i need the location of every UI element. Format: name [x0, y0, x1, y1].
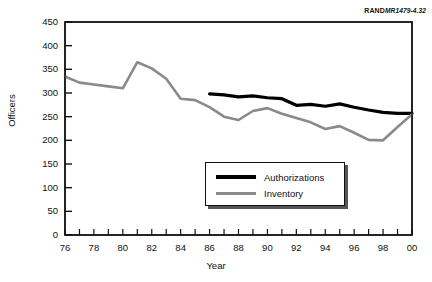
y-tick-label: 100 — [18, 182, 58, 193]
x-tick-label: 96 — [342, 242, 366, 253]
x-tick-label: 78 — [82, 242, 106, 253]
x-axis-label: Year — [0, 260, 432, 271]
y-tick-label: 300 — [18, 87, 58, 98]
x-tick-label: 84 — [169, 242, 193, 253]
x-tick-label: 92 — [284, 242, 308, 253]
legend-item-authorizations: Authorizations — [216, 170, 324, 184]
y-tick-label: 450 — [18, 16, 58, 27]
x-tick-label: 00 — [400, 242, 424, 253]
source-code: MR1479-4.32 — [385, 7, 426, 14]
x-tick-label: 80 — [111, 242, 135, 253]
legend-swatch-authorizations — [216, 175, 256, 179]
x-tick-label: 82 — [140, 242, 164, 253]
y-tick-label: 0 — [18, 229, 58, 240]
legend-swatch-inventory — [216, 192, 256, 195]
y-tick-label: 250 — [18, 111, 58, 122]
y-tick-label: 400 — [18, 40, 58, 51]
source-brand: RAND — [364, 7, 385, 14]
y-tick-label: 150 — [18, 158, 58, 169]
legend-item-inventory: Inventory — [216, 186, 303, 200]
legend-label-authorizations: Authorizations — [264, 172, 324, 183]
x-tick-label: 98 — [371, 242, 395, 253]
x-tick-label: 76 — [53, 242, 77, 253]
legend-label-inventory: Inventory — [264, 188, 303, 199]
legend: Authorizations Inventory — [205, 162, 345, 206]
y-axis-label: Officers — [6, 76, 17, 146]
x-tick-label: 94 — [313, 242, 337, 253]
y-tick-label: 200 — [18, 134, 58, 145]
y-tick-label: 50 — [18, 205, 58, 216]
x-tick-label: 88 — [227, 242, 251, 253]
source-tag: RANDMR1479-4.32 — [364, 7, 426, 14]
x-tick-label: 86 — [198, 242, 222, 253]
x-tick-label: 90 — [255, 242, 279, 253]
line-chart — [0, 0, 432, 282]
y-tick-label: 350 — [18, 63, 58, 74]
